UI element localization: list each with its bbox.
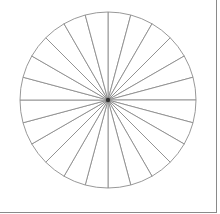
chart-frame <box>0 0 217 213</box>
pie-center-dot <box>106 98 110 102</box>
pie-chart <box>0 0 216 212</box>
